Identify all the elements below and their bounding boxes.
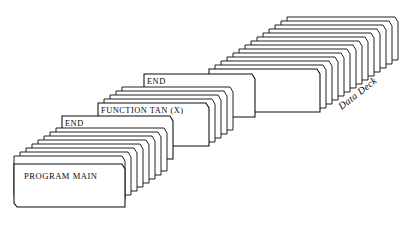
- card-label-function-tan: FUNCTION TAN (X): [101, 107, 184, 115]
- card-label-end-upper: END: [147, 78, 166, 86]
- punch-card-deck-diagram: PROGRAM MAIN END FUNCTION TAN (X) END Da…: [0, 0, 402, 226]
- main-program-deck-group: [14, 128, 167, 207]
- card-stack-illustration: [0, 0, 402, 226]
- card-label-program-main: PROGRAM MAIN: [24, 172, 98, 181]
- card-label-end-lower: END: [65, 120, 84, 128]
